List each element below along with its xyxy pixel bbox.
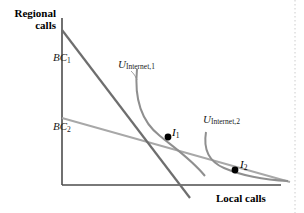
budget-line-bc1 [62,30,190,198]
bc2-label-text: BC [53,120,67,132]
u2-label-text: U [203,113,211,125]
i2-label-subscript: 2 [244,163,248,172]
i1-label-subscript: 1 [176,131,180,140]
u1-label-subscript: Internet,1 [126,62,155,71]
bc1-label-text: BC [53,51,67,63]
budget-line-bc1-label: BC1 [53,51,71,63]
utility-curve-internet-2 [205,132,288,181]
equilibrium-point-i2 [232,167,239,174]
bc2-label-subscript: 2 [67,125,71,134]
equilibrium-point-i2-label: I2 [240,158,247,170]
x-axis-label: Local calls [216,192,266,204]
utility-curve-internet-2-label: UInternet,2 [203,113,240,125]
bc1-label-subscript: 1 [67,56,71,65]
equilibrium-point-i1 [165,134,172,141]
u1-label-text: U [118,58,126,70]
equilibrium-point-i1-label: I1 [172,126,179,138]
plot-canvas [0,0,304,213]
y-axis-label: Regional calls [2,7,56,31]
indifference-curve-figure: Regional calls Local calls BC1 BC2 UInte… [0,0,304,213]
budget-line-bc2-label: BC2 [53,120,71,132]
u2-label-subscript: Internet,2 [211,117,240,126]
utility-curve-internet-1 [136,69,205,176]
utility-curve-internet-1-label: UInternet,1 [118,58,155,70]
